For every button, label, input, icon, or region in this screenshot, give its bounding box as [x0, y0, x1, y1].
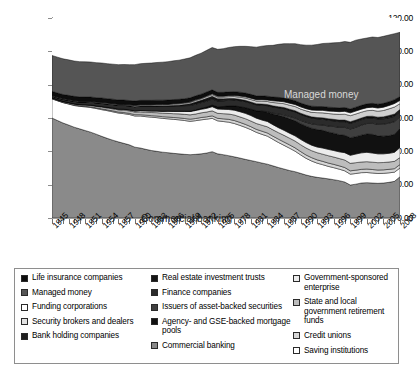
x-axis-tick-labels: 1945194819511954195719601963196619691972…: [52, 224, 404, 258]
legend-item-label: Bank holding companies: [32, 331, 119, 341]
legend-item-label: State and local government retirement fu…: [304, 297, 397, 326]
legend-item-label: Agency- and GSE-backed mortgage pools: [162, 317, 291, 336]
legend-column-2: Real estate investment trustsFinance com…: [151, 273, 291, 356]
legend-swatch: [21, 304, 28, 311]
legend-item[interactable]: Real estate investment trusts: [151, 273, 291, 283]
legend-item[interactable]: Security brokers and dealers: [21, 317, 149, 327]
legend-item[interactable]: Issuers of asset-backed securities: [151, 302, 291, 312]
legend-item[interactable]: Credit unions: [293, 331, 397, 341]
legend-item-label: Finance companies: [162, 288, 231, 298]
legend-item-label: Saving institutions: [304, 346, 368, 356]
legend-swatch: [21, 275, 28, 282]
stacked-area-chart: 0.0020.0040.0060.0080.00100.00120.00 Man…: [0, 0, 413, 262]
plot-area: Managed money Commercial banking: [52, 18, 400, 218]
legend-swatch: [151, 289, 158, 296]
legend: Life insurance companiesManaged moneyFun…: [14, 268, 399, 364]
legend-swatch: [151, 275, 158, 282]
legend-swatch: [151, 304, 158, 311]
legend-column-1: Life insurance companiesManaged moneyFun…: [21, 273, 149, 346]
legend-swatch: [293, 347, 300, 354]
legend-swatch: [151, 318, 158, 325]
legend-swatch: [151, 342, 158, 349]
legend-item[interactable]: Managed money: [21, 288, 149, 298]
legend-swatch: [21, 318, 28, 325]
legend-item-label: Funding corporations: [32, 302, 107, 312]
legend-item-label: Managed money: [32, 288, 92, 298]
legend-swatch: [21, 289, 28, 296]
legend-item[interactable]: Commercial banking: [151, 341, 291, 351]
legend-item[interactable]: State and local government retirement fu…: [293, 297, 397, 326]
legend-item-label: Life insurance companies: [32, 273, 122, 283]
legend-item[interactable]: Funding corporations: [21, 302, 149, 312]
legend-item[interactable]: Agency- and GSE-backed mortgage pools: [151, 317, 291, 336]
legend-item-label: Real estate investment trusts: [162, 273, 265, 283]
legend-swatch: [293, 299, 300, 306]
legend-swatch: [21, 333, 28, 340]
legend-item-label: Credit unions: [304, 331, 351, 341]
legend-item[interactable]: Finance companies: [151, 288, 291, 298]
managed-money-label: Managed money: [284, 90, 359, 100]
legend-item[interactable]: Government-sponsored enterprise: [293, 273, 397, 292]
legend-item[interactable]: Saving institutions: [293, 346, 397, 356]
legend-item-label: Commercial banking: [162, 341, 235, 351]
legend-item-label: Security brokers and dealers: [32, 317, 133, 327]
legend-column-3: Government-sponsored enterpriseState and…: [293, 273, 397, 360]
legend-item-label: Issuers of asset-backed securities: [162, 302, 282, 312]
plot-clip: [52, 18, 400, 218]
area-series-svg: [52, 18, 400, 218]
legend-swatch: [293, 275, 300, 282]
legend-item[interactable]: Bank holding companies: [21, 331, 149, 341]
legend-item-label: Government-sponsored enterprise: [304, 273, 397, 292]
legend-swatch: [293, 332, 300, 339]
legend-item[interactable]: Life insurance companies: [21, 273, 149, 283]
